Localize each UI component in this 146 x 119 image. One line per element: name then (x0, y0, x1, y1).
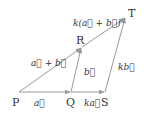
vector-label-ka: ka⃗ (84, 98, 100, 108)
vector-PR (19, 48, 81, 92)
point-label-T: T (128, 7, 136, 20)
vector-label-kb: kb⃗ (118, 62, 135, 72)
point-label-Q: Q (66, 96, 75, 109)
point-label-P: P (12, 96, 20, 109)
vector-label-a: a⃗ (34, 98, 45, 108)
vector-label-b: b⃗ (84, 67, 95, 77)
vector-label-k-a-plus-b: k(a⃗ + b⃗) (73, 18, 121, 28)
vector-diagram: P Q S R T a⃗ ka⃗ b⃗ kb⃗ a⃗ + b⃗ k(a⃗ + b… (0, 0, 146, 119)
point-label-R: R (76, 34, 85, 47)
vector-label-a-plus-b: a⃗ + b⃗ (31, 58, 66, 68)
point-label-S: S (101, 96, 109, 109)
